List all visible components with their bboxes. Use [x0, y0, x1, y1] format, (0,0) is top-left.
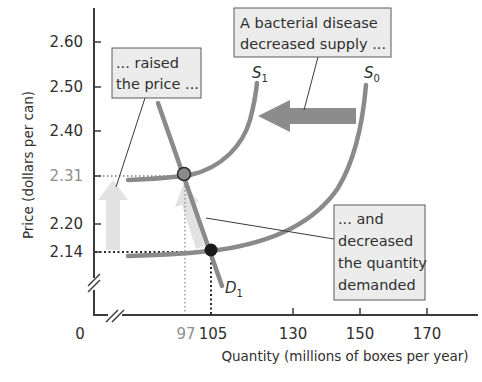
d1-label: D1 [225, 279, 243, 299]
y-axis-title: Price (dollars per can) [20, 91, 36, 239]
svg-text:decreased: decreased [338, 233, 413, 249]
y-tick-2-20: 2.20 [50, 215, 83, 233]
x-axis-title: Quantity (millions of boxes per year) [221, 348, 468, 364]
svg-text:demanded: demanded [338, 277, 416, 293]
new-equilibrium-point [178, 168, 191, 181]
supply-demand-chart: Price (dollars per can) [0, 0, 482, 382]
y-tick-2-60: 2.60 [50, 33, 83, 51]
supply-shift-arrow [258, 100, 356, 132]
x-tick-170: 170 [413, 325, 442, 343]
svg-text:... raised: ... raised [116, 55, 179, 71]
x-tick-97: 97 [176, 325, 195, 343]
svg-text:decreased supply ...: decreased supply ... [240, 36, 386, 52]
price-rise-arrow [98, 180, 128, 250]
callout-quantity-decreased: ... and decreased the quantity demanded [334, 205, 427, 300]
x-axis-break-icon [106, 309, 124, 322]
initial-equilibrium-point [205, 244, 218, 257]
y-tick-2-14: 2.14 [50, 243, 83, 261]
svg-text:... and: ... and [338, 211, 384, 227]
x-tick-130: 130 [279, 325, 308, 343]
x-tick-105: 105 [199, 325, 228, 343]
y-tick-labels: 2.60 2.50 2.40 2.31 2.20 2.14 [50, 33, 83, 261]
y-tick-2-31: 2.31 [50, 167, 83, 185]
svg-text:the price ...: the price ... [116, 76, 199, 92]
callout-price-raised: ... raised the price ... [112, 48, 201, 98]
svg-text:the quantity: the quantity [338, 255, 427, 271]
callout-supply-decrease: A bacterial disease decreased supply ... [234, 8, 391, 57]
x-tick-labels: 0 97 105 130 150 170 [75, 325, 441, 343]
x-origin-label: 0 [75, 325, 85, 343]
svg-text:A bacterial disease: A bacterial disease [240, 15, 378, 31]
y-tick-2-50: 2.50 [50, 78, 83, 96]
s0-label: S0 [364, 64, 380, 84]
s1-label: S1 [252, 64, 268, 84]
x-tick-150: 150 [346, 325, 375, 343]
demand-curve-d1 [158, 103, 222, 286]
y-tick-2-40: 2.40 [50, 122, 83, 140]
